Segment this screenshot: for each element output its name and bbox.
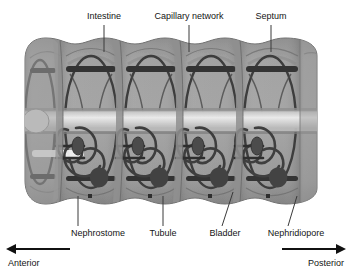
nephridia-diagram-svg: Intestine Capillary network Septum Nephr…	[0, 0, 352, 273]
worm-body	[20, 30, 320, 215]
label-septum: Septum	[255, 11, 286, 21]
label-posterior: Posterior	[308, 258, 344, 268]
body-contents	[20, 30, 320, 215]
label-anterior: Anterior	[8, 258, 40, 268]
label-tubule: Tubule	[149, 228, 176, 238]
diagram-canvas: Intestine Capillary network Septum Nephr…	[0, 0, 352, 273]
label-bladder: Bladder	[209, 228, 240, 238]
label-capillary-network: Capillary network	[154, 11, 224, 21]
label-nephrostome: Nephrostome	[71, 228, 125, 238]
dorsal-vessels	[30, 66, 298, 73]
anterior-cut-face	[25, 38, 58, 204]
label-intestine: Intestine	[87, 11, 121, 21]
posterior-cut-face	[300, 36, 318, 208]
label-nephridiopore: Nephridiopore	[268, 228, 325, 238]
